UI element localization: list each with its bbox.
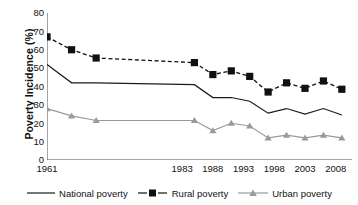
data-point-marker	[228, 120, 235, 126]
data-point-marker	[246, 73, 253, 80]
y-tick-label: 80	[22, 8, 44, 18]
y-tick-label: 20	[22, 119, 44, 129]
data-point-marker	[228, 67, 235, 74]
series-line-urban	[47, 109, 342, 138]
data-point-marker	[283, 79, 290, 86]
data-point-marker	[47, 33, 51, 40]
legend-line-solid-icon	[26, 188, 56, 198]
x-tick-label: 2003	[288, 163, 322, 174]
legend-item-urban: Urban poverty	[237, 188, 332, 199]
x-axis-tick-labels: 1961198319881993199820032008	[0, 163, 358, 177]
chart-svg	[47, 13, 352, 160]
x-tick-label: 1988	[196, 163, 230, 174]
y-tick-label: 40	[22, 82, 44, 92]
data-point-marker	[283, 132, 290, 138]
data-point-marker	[320, 77, 327, 84]
y-axis-tick-labels: 01020304050607080	[18, 13, 44, 160]
legend-dashed-square-icon	[137, 188, 169, 198]
chart-legend: National poverty Rural poverty Urban pov…	[0, 184, 358, 202]
data-point-marker	[68, 46, 75, 53]
legend-label-national: National poverty	[59, 188, 128, 199]
plot-area	[47, 13, 352, 160]
data-point-marker	[191, 59, 198, 66]
chart-container: Poverty Incidence (%) 01020304050607080 …	[0, 0, 358, 205]
y-tick-label: 30	[22, 100, 44, 110]
series-line-national	[47, 64, 342, 115]
legend-label-rural: Rural poverty	[172, 188, 229, 199]
y-tick-label: 70	[22, 27, 44, 37]
x-tick-label: 1961	[30, 163, 64, 174]
data-point-marker	[47, 105, 51, 111]
x-tick-label: 2008	[319, 163, 353, 174]
x-tick-label: 1983	[165, 163, 199, 174]
data-point-marker	[209, 71, 216, 78]
x-tick-label: 1993	[227, 163, 261, 174]
y-tick-label: 50	[22, 63, 44, 73]
legend-line-triangle-icon	[237, 188, 269, 198]
y-tick-label: 60	[22, 45, 44, 55]
data-point-marker	[338, 86, 345, 93]
y-tick-label: 10	[22, 137, 44, 147]
data-point-marker	[93, 54, 100, 61]
legend-label-urban: Urban poverty	[272, 188, 332, 199]
legend-item-rural: Rural poverty	[137, 188, 229, 199]
data-point-marker	[301, 85, 308, 92]
data-point-marker	[320, 132, 327, 138]
x-tick-label: 1998	[257, 163, 291, 174]
data-point-marker	[265, 88, 272, 95]
legend-item-national: National poverty	[26, 188, 128, 199]
